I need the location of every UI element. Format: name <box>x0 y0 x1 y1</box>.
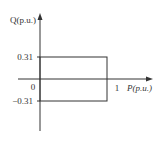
y-axis-arrow-icon <box>38 13 43 20</box>
pq-chart: Q(p.u.) P(p.u.) 0.31 −0.31 0 1 <box>0 0 162 145</box>
y-tick-label-bottom: −0.31 <box>12 96 33 106</box>
x-axis-label: P(p.u.) <box>126 83 152 93</box>
origin-label: 0 <box>31 82 36 92</box>
x-tick-label-1: 1 <box>115 83 120 93</box>
x-axis-arrow-icon <box>146 77 153 82</box>
y-axis-label: Q(p.u.) <box>10 15 36 25</box>
y-tick-label-top: 0.31 <box>17 52 33 62</box>
